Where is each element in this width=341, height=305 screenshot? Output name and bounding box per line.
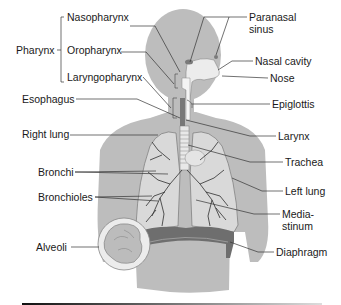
- label-epiglottis: Epiglottis: [272, 98, 315, 110]
- label-paranasal-sinus-line2: sinus: [249, 23, 274, 35]
- label-right-lung: Right lung: [22, 128, 69, 140]
- label-paranasal-sinus-line1: Paranasal: [249, 11, 296, 23]
- label-diaphragm: Diaphragm: [276, 246, 328, 258]
- label-bronchioles: Bronchioles: [38, 191, 93, 203]
- label-left-lung: Left lung: [285, 185, 325, 197]
- label-pharynx: Pharynx: [16, 44, 55, 56]
- label-nasal-cavity: Nasal cavity: [255, 55, 312, 67]
- label-nasopharynx: Nasopharynx: [67, 11, 130, 23]
- label-esophagus: Esophagus: [22, 93, 75, 105]
- label-laryngopharynx: Laryngopharynx: [67, 71, 143, 83]
- label-oropharynx: Oropharynx: [67, 44, 123, 56]
- alveoli-magnifier: [98, 218, 150, 270]
- label-mediastinum-line2: stinum: [282, 220, 313, 232]
- label-nose: Nose: [270, 72, 295, 84]
- label-trachea: Trachea: [285, 156, 323, 168]
- respiratory-system-diagram: Nasopharynx Oropharynx Laryngopharynx Ph…: [0, 0, 341, 305]
- label-mediastinum-line1: Media-: [282, 208, 315, 220]
- label-alveoli: Alveoli: [36, 241, 67, 253]
- label-bronchi: Bronchi: [38, 166, 74, 178]
- label-larynx: Larynx: [278, 130, 310, 142]
